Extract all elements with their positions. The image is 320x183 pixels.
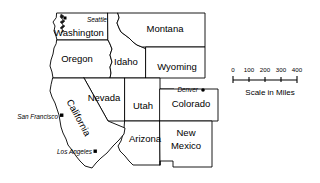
city-label-los-angeles: Los Angeles (57, 148, 93, 156)
state-label-idaho: Idaho (114, 56, 138, 67)
city-dot-san-francisco (60, 114, 63, 117)
state-label-utah: Utah (133, 100, 153, 111)
city-dot-seattle (64, 17, 67, 20)
state-label-arizona: Arizona (129, 133, 162, 144)
state-label-nevada: Nevada (88, 92, 121, 103)
scale-tick-label-400: 400 (292, 66, 303, 73)
scale-tick-label-200: 200 (260, 66, 271, 73)
scale-bar-caption: Scale in Miles (245, 88, 294, 97)
state-label-new-mexico-line2: Mexico (171, 140, 201, 151)
state-label-montana: Montana (147, 23, 185, 34)
map-figure: Washington Oregon Idaho Montana Wyoming … (0, 0, 320, 183)
state-label-new-mexico-line1: New (176, 127, 195, 138)
scale-bar: 0 100 200 300 400 Scale in Miles (231, 66, 302, 97)
city-label-denver: Denver (177, 86, 198, 93)
city-dot-denver (201, 88, 205, 92)
state-label-washington: Washington (54, 27, 104, 38)
scale-tick-label-100: 100 (244, 66, 255, 73)
state-label-wyoming: Wyoming (157, 61, 197, 72)
state-label-colorado: Colorado (172, 98, 211, 109)
city-label-san-francisco: San Francisco (17, 113, 58, 120)
city-label-seattle: Seattle (87, 16, 107, 23)
city-dot-los-angeles (94, 150, 97, 153)
scale-tick-label-300: 300 (276, 66, 287, 73)
scale-tick-label-0: 0 (231, 66, 235, 73)
state-label-oregon: Oregon (61, 53, 93, 64)
map-canvas: Washington Oregon Idaho Montana Wyoming … (0, 0, 320, 183)
